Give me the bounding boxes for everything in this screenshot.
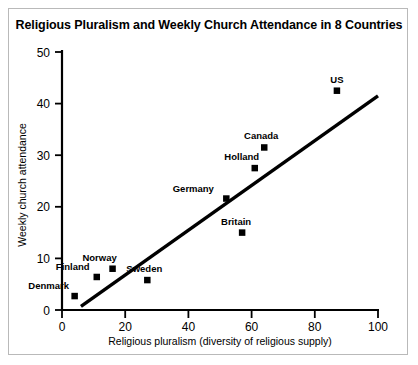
data-point-marker xyxy=(223,195,230,202)
x-tick-label: 100 xyxy=(368,320,388,334)
y-axis-ticks: 01020304050 xyxy=(37,46,62,318)
y-axis-title: Weekly church attendance xyxy=(16,123,28,247)
data-point: Canada xyxy=(244,130,279,150)
data-point-marker xyxy=(71,293,78,300)
data-point-marker xyxy=(94,274,101,281)
data-point-label: Denmark xyxy=(28,280,69,291)
x-axis-title: Religious pluralism (diversity of religi… xyxy=(108,335,332,347)
data-point-marker xyxy=(252,165,259,172)
data-point-label: Germany xyxy=(173,183,215,194)
data-point-label: US xyxy=(330,74,343,85)
scatter-plot: 01020304050 020406080100 DenmarkFinlandN… xyxy=(0,0,418,365)
data-point-label: Sweden xyxy=(126,263,162,274)
y-tick-label: 50 xyxy=(37,46,51,60)
y-tick-label: 40 xyxy=(37,97,51,111)
data-point: Sweden xyxy=(126,263,162,283)
chart-page: Religious Pluralism and Weekly Church At… xyxy=(0,0,418,365)
data-point: US xyxy=(330,74,343,94)
x-tick-label: 60 xyxy=(245,320,259,334)
x-tick-label: 80 xyxy=(308,320,322,334)
x-axis-ticks: 020406080100 xyxy=(59,310,389,334)
x-tick-label: 40 xyxy=(182,320,196,334)
data-point: Denmark xyxy=(28,280,78,299)
y-tick-label: 10 xyxy=(37,252,51,266)
data-point-marker xyxy=(239,229,246,236)
x-tick-label: 20 xyxy=(119,320,133,334)
x-tick-label: 0 xyxy=(59,320,66,334)
y-tick-label: 0 xyxy=(43,304,50,318)
data-point-marker xyxy=(109,265,116,272)
data-point-marker xyxy=(144,277,151,284)
data-point-marker xyxy=(261,144,268,151)
data-point-label: Norway xyxy=(82,252,117,263)
data-point-label: Britain xyxy=(221,216,251,227)
data-points-group: DenmarkFinlandNorwaySwedenGermanyBritain… xyxy=(28,74,343,300)
data-point-marker xyxy=(334,87,341,94)
data-point: Britain xyxy=(221,216,251,236)
data-point-label: Canada xyxy=(244,130,279,141)
y-tick-label: 30 xyxy=(37,149,51,163)
y-tick-label: 20 xyxy=(37,200,51,214)
data-point-label: Holland xyxy=(224,151,259,162)
data-point: Holland xyxy=(224,151,259,171)
data-point: Germany xyxy=(173,183,230,202)
